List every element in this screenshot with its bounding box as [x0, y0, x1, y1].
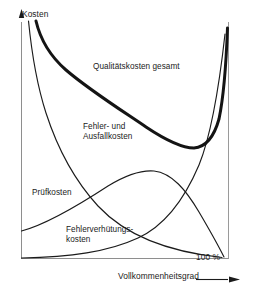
x-axis-max-tick-label: 100 %: [196, 253, 220, 263]
series-label-failure-costs: Fehler- undAusfallkosten: [83, 122, 132, 141]
quality-cost-chart: Kosten Qualitätskosten gesamt Fehler- un…: [0, 0, 255, 296]
series-label-prevention-line1: Fehlerverhütungs-: [66, 225, 133, 234]
series-label-prevention-costs: Fehlerverhütungs-kosten: [66, 225, 133, 244]
series-label-prevention-line2: kosten: [66, 235, 90, 244]
series-label-failure-line1: Fehler- und: [83, 122, 125, 131]
series-label-total-quality-costs: Qualitätskosten gesamt: [93, 62, 180, 72]
x-axis-label: Vollkommenheitsgrad: [118, 272, 199, 282]
series-label-appraisal-costs: Prüfkosten: [32, 188, 72, 198]
series-label-failure-line2: Ausfallkosten: [83, 132, 132, 141]
y-axis-label: Kosten: [22, 10, 48, 20]
